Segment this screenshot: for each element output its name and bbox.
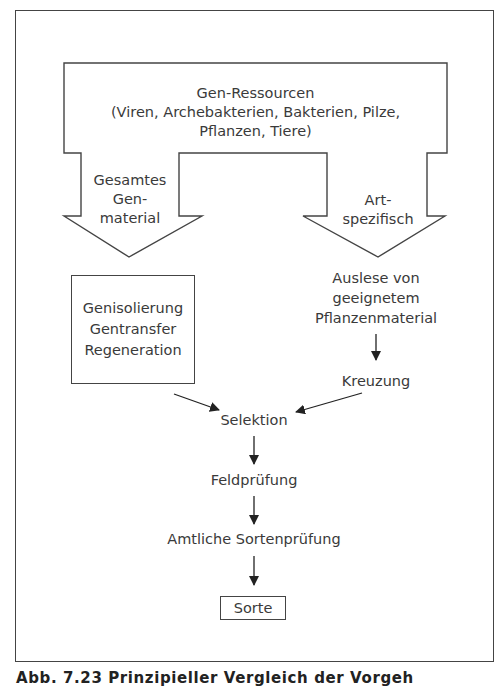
gene-isolation-box: Genisolierung Gentransfer Regeneration [71,275,195,384]
variety-label: Sorte [234,598,273,619]
selection-line2: geeignetem [306,288,446,308]
right-arrow-line1: Art- [323,191,433,210]
right-arrow-line2: spezifisch [323,210,433,229]
species-specific-label: Art- spezifisch [323,191,433,229]
selection-line1: Auslese von [306,268,446,288]
left-arrow-line2: Gen- [81,190,179,209]
gen-resources-title: Gen-Ressourcen [64,84,447,103]
official-variety-testing-label: Amtliche Sortenprüfung [144,530,364,549]
gene-transfer-label: Gentransfer [83,319,183,340]
regeneration-label: Regeneration [83,340,183,361]
plant-material-selection-label: Auslese von geeignetem Pflanzenmaterial [306,268,446,328]
variety-box: Sorte [220,596,286,620]
gen-resources-line2: (Viren, Archebakterien, Bakterien, Pilze… [64,103,447,122]
left-arrow-line3: material [81,209,179,228]
figure-caption: Abb. 7.23 Prinzipieller Vergleich der Vo… [16,669,414,687]
gen-resources-line3: Pflanzen, Tiere) [64,122,447,141]
crossing-label: Kreuzung [316,372,436,391]
selection-line3: Pflanzenmaterial [306,308,446,328]
gene-isolation-label: Genisolierung [83,298,183,319]
gen-resources-label: Gen-Ressourcen (Viren, Archebakterien, B… [64,84,447,141]
field-testing-label: Feldprüfung [184,471,324,490]
selection-step-label: Selektion [194,411,314,430]
total-genetic-material-label: Gesamtes Gen- material [81,171,179,228]
left-arrow-line1: Gesamtes [81,171,179,190]
